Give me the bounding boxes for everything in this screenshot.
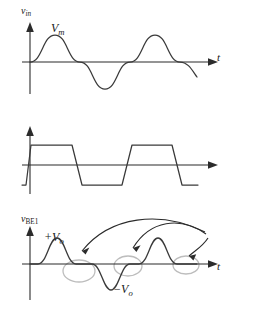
axis-label-t-panel1: t	[217, 52, 220, 63]
panel-vin: vin Vm t	[0, 0, 275, 104]
panel-vin-plot	[0, 0, 275, 104]
panel-vbe1-plot	[0, 104, 275, 204]
label-vm: Vm	[51, 22, 65, 34]
panel-vo: vo = vin − vBE1 (Vm − Vo) (−Vm + Vo) t C…	[0, 204, 275, 314]
panel-vbe1: vBE1 +Vo −Vo t	[0, 104, 275, 204]
y-axis-arrowhead	[26, 126, 34, 136]
y-axis-arrowhead	[26, 22, 34, 32]
axis-label-vin: vin	[21, 6, 31, 16]
annotation-arrow-path-2	[133, 223, 206, 248]
crossover-highlight-2	[114, 256, 142, 276]
x-axis-arrowhead	[208, 161, 218, 169]
crossover-highlight-3	[173, 256, 199, 274]
y-axis-arrowhead	[26, 226, 34, 236]
panel-vo-plot	[0, 204, 275, 314]
annotation-arrow-path-3	[189, 238, 208, 256]
x-axis-arrowhead	[208, 260, 218, 268]
crossover-highlight-1	[63, 260, 95, 282]
annotation-arrow-head-1	[82, 248, 89, 255]
crossover-distortion-figure: vin Vm t vBE1 +Vo −Vo t	[0, 0, 275, 314]
